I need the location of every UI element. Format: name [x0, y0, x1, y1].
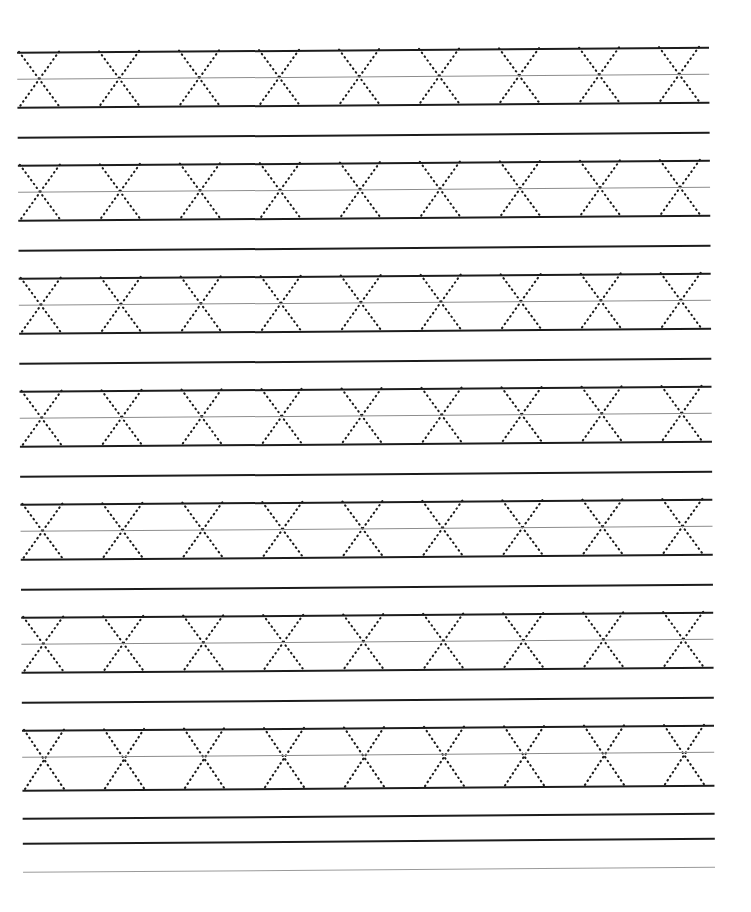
separator-baseline: [18, 132, 710, 139]
separator-baseline: [21, 584, 713, 591]
trace-glyph-canvas: [2, 724, 751, 790]
trace-glyph-x: [584, 725, 624, 785]
trace-glyph-x: [24, 730, 64, 790]
trace-glyph-x: [664, 725, 704, 785]
separator-baseline: [22, 697, 714, 704]
worksheet-skew-wrapper: [0, 0, 751, 912]
separator-baseline: [19, 358, 711, 365]
separator-baseline: [20, 471, 712, 478]
separator-baseline: [23, 813, 715, 820]
trace-glyph-x: [184, 728, 224, 788]
trace-glyph-row: [2, 724, 751, 790]
separator-baseline: [18, 245, 710, 252]
trace-glyph-x: [264, 728, 304, 788]
trace-glyph-x: [504, 726, 544, 786]
trailing-line-2: [23, 867, 715, 873]
trailing-line-1: [23, 838, 715, 845]
trace-glyph-x: [344, 727, 384, 787]
worksheet-page: [0, 0, 751, 912]
trace-glyph-x: [424, 727, 464, 787]
trace-glyph-x: [104, 729, 144, 789]
